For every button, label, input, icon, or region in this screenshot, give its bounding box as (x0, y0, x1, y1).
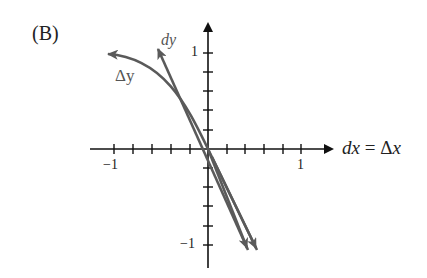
delta-y-curve-tail (212, 157, 256, 248)
y-tick-label-1: 1 (191, 44, 198, 60)
x-axis-label-x: x (392, 137, 400, 158)
x-axis-label-eq: = (360, 137, 380, 158)
x-axis-label-delta: Δ (380, 137, 392, 158)
delta-y-label: Δy (115, 66, 134, 86)
y-tick-label-neg1: −1 (180, 236, 195, 252)
x-axis-label-var: dx (342, 137, 360, 158)
x-tick-label-1: 1 (297, 157, 304, 173)
panel-label: (B) (32, 22, 59, 45)
x-tick-label-neg1: −1 (103, 157, 118, 173)
dy-label: dy (161, 31, 176, 49)
delta-y-text: Δy (115, 66, 134, 85)
x-axis-label: dx = Δx (342, 137, 401, 159)
